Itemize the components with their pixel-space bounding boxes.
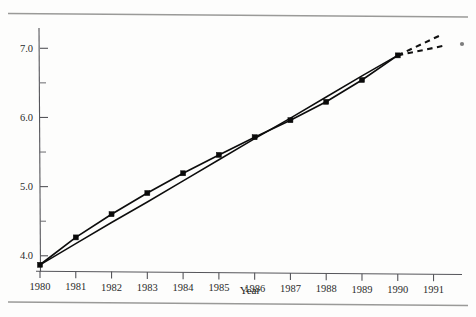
x-tick-label-1990: 1990 (387, 284, 408, 295)
top-rule (8, 14, 468, 18)
data-point-1981 (73, 235, 78, 240)
data-point-1980 (38, 262, 43, 267)
projection-lines (398, 34, 443, 55)
x-tick-label-1985: 1985 (208, 282, 229, 293)
x-tick-label-1981: 1981 (65, 281, 86, 292)
projection-upper-projection (398, 34, 443, 55)
x-axis-title: Year (240, 284, 261, 296)
data-point-1989 (359, 77, 364, 82)
data-point-1990 (395, 53, 400, 58)
y-tick-label-7.0: 7.0 (20, 43, 33, 54)
figure-container: 4.05.06.07.0 198019811982198319841985198… (0, 0, 476, 317)
y-tick-label-5.0: 5.0 (20, 181, 33, 192)
bottom-rule (8, 302, 468, 306)
x-tick-label-1983: 1983 (137, 282, 158, 293)
x-tick-label-1988: 1988 (316, 283, 337, 294)
data-point-1982 (109, 212, 114, 217)
data-point-1983 (145, 191, 150, 196)
projection-lower-projection (398, 46, 443, 55)
x-tick-label-1982: 1982 (101, 282, 122, 293)
y-tick-label-4.0: 4.0 (20, 250, 33, 261)
x-tick-label-1980: 1980 (30, 281, 51, 292)
y-axis-tick-labels: 4.05.06.07.0 (20, 43, 33, 261)
data-point-1987 (288, 118, 293, 123)
y-axis-line (39, 28, 41, 272)
data-series-layer (40, 55, 398, 264)
axes (36, 28, 462, 275)
data-point-1986 (252, 135, 257, 140)
x-tick-label-1991: 1991 (423, 284, 444, 295)
y-axis-ticks (40, 48, 48, 255)
data-point-1985 (216, 152, 221, 157)
data-point-1984 (181, 171, 186, 176)
scan-speck-artifact (460, 42, 464, 46)
chart-canvas: 4.05.06.07.0 198019811982198319841985198… (0, 0, 476, 317)
y-tick-label-6.0: 6.0 (20, 112, 33, 123)
x-tick-label-1989: 1989 (351, 284, 372, 295)
data-point-1988 (324, 99, 329, 104)
x-tick-label-1984: 1984 (173, 282, 195, 293)
series-line-trend (40, 55, 398, 264)
x-tick-label-1987: 1987 (280, 283, 301, 294)
x-axis-tick-labels: 1980198119821983198419851986198719881989… (30, 281, 445, 295)
